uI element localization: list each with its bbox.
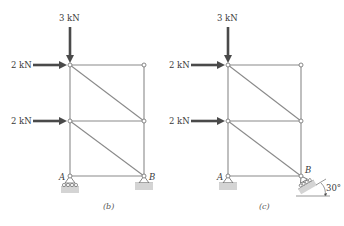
figure-caption-c: (c) xyxy=(259,202,270,211)
truss-members-b xyxy=(70,65,144,176)
support-label-B-c: B xyxy=(304,165,311,175)
truss-diagrams: 3 kN 2 kN 2 kN A xyxy=(0,0,344,226)
angle-label: 30° xyxy=(326,183,341,193)
joint-B-c xyxy=(299,174,303,178)
load-arrow-down-icon xyxy=(66,27,74,63)
load-arrow-right-icon xyxy=(33,117,67,125)
load-arrow-right-icon xyxy=(191,61,225,69)
load-arrow-down-icon xyxy=(224,27,232,63)
figure-caption-b: (b) xyxy=(103,202,114,211)
load-label-3kN-b: 3 kN xyxy=(59,13,80,23)
support-label-A-b: A xyxy=(58,172,65,182)
load-label-2kN-mid-c: 2 kN xyxy=(169,116,190,126)
truss-figure-b: 3 kN 2 kN 2 kN A xyxy=(11,13,155,211)
load-arrow-right-icon xyxy=(33,61,67,69)
load-arrow-right-icon xyxy=(191,117,225,125)
truss-members-c xyxy=(228,65,301,176)
load-label-2kN-top-b: 2 kN xyxy=(11,60,32,70)
support-label-A-c: A xyxy=(216,172,223,182)
load-label-2kN-top-c: 2 kN xyxy=(169,60,190,70)
support-label-B-b: B xyxy=(148,172,155,182)
truss-figure-c: 3 kN 2 kN 2 kN A B xyxy=(169,13,341,211)
load-label-2kN-mid-b: 2 kN xyxy=(11,116,32,126)
load-label-3kN-c: 3 kN xyxy=(217,13,238,23)
